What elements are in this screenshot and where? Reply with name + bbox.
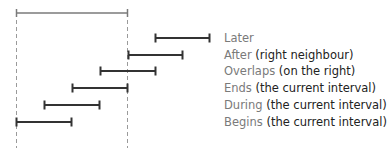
relation-label-later: Later — [224, 31, 254, 45]
relation-interval-ends — [73, 84, 128, 93]
relation-interval-begins — [17, 118, 72, 127]
reference-interval — [17, 9, 128, 17]
relation-label-after: After (right neighbour) — [224, 48, 353, 62]
relation-label-overlaps: Overlaps (on the right) — [224, 64, 355, 78]
relation-interval-during — [45, 101, 100, 110]
relation-interval-overlaps — [101, 67, 156, 76]
relation-label-during: During (the current interval) — [224, 98, 387, 112]
relation-label-ends: Ends (the current interval) — [224, 81, 376, 95]
relation-interval-after — [129, 51, 183, 60]
relation-detail: (the current interval) — [266, 98, 387, 112]
relation-keyword: Overlaps — [224, 64, 275, 78]
relation-detail: (on the right) — [279, 64, 356, 78]
relation-detail: (the current interval) — [256, 81, 377, 95]
relation-keyword: Later — [224, 31, 254, 45]
relation-interval-later — [156, 34, 210, 43]
relation-keyword: During — [224, 98, 263, 112]
relation-keyword: Begins — [224, 115, 263, 129]
relation-keyword: Ends — [224, 81, 252, 95]
relation-label-begins: Begins (the current interval) — [224, 115, 387, 129]
relation-keyword: After — [224, 48, 252, 62]
relation-detail: (right neighbour) — [255, 48, 353, 62]
relation-detail: (the current interval) — [266, 115, 387, 129]
